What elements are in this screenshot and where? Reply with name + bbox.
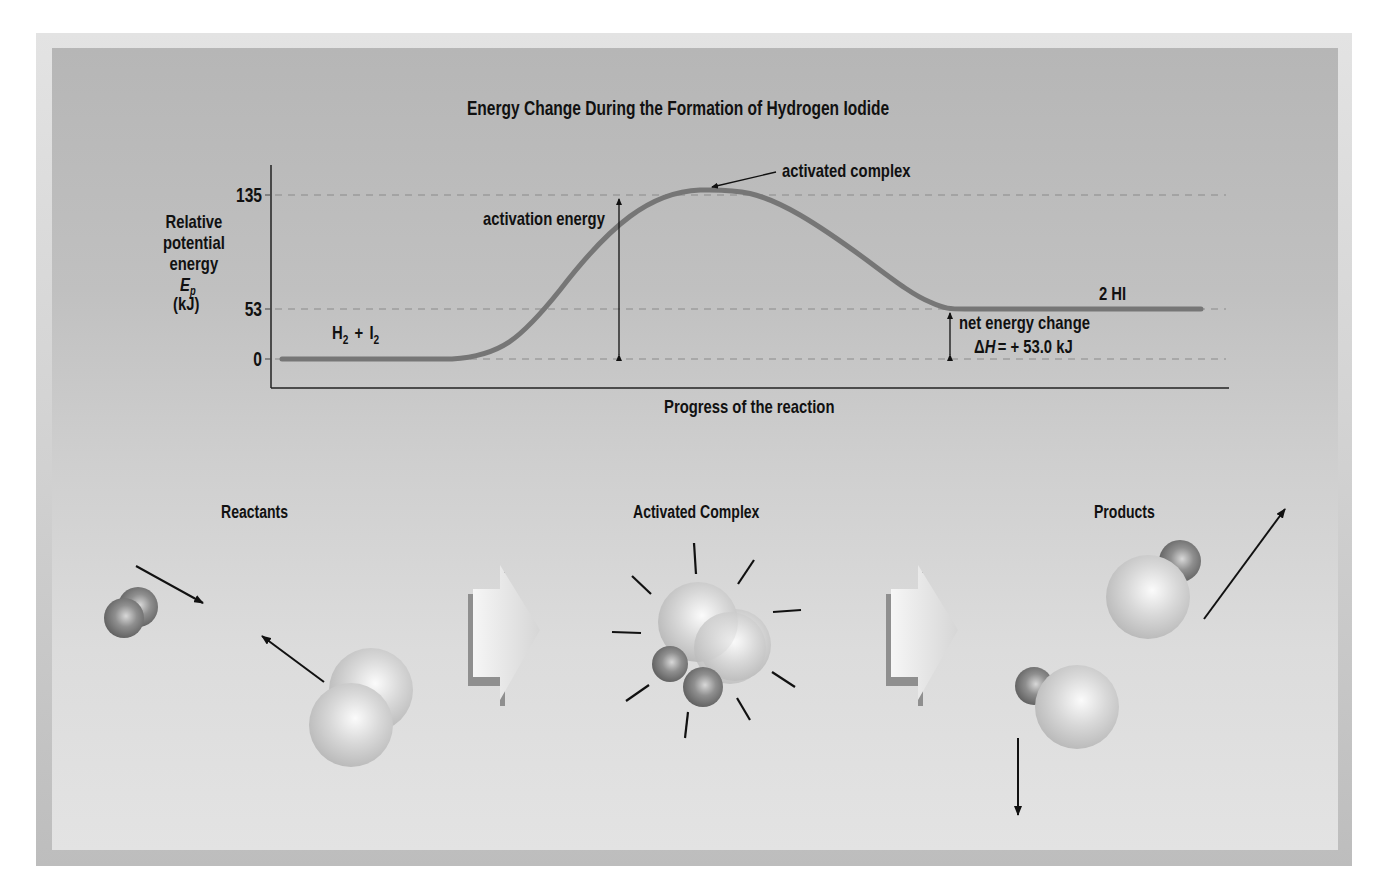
- delta-h-value: ΔH= + 53.0 kJ: [974, 336, 1073, 358]
- diagram-graphics: [0, 0, 1380, 884]
- products-formula: 2 HI: [1099, 283, 1126, 305]
- process-arrow-2: [886, 565, 958, 706]
- activated-complex-molecule: [612, 543, 801, 738]
- delta-h-number: = + 53.0 kJ: [995, 336, 1072, 357]
- y-tick-53: 53: [231, 298, 262, 321]
- gridlines: [275, 195, 1226, 359]
- y-axis-label: Relative potential energy: [163, 211, 225, 274]
- y-tick-0: 0: [231, 348, 262, 371]
- reactants-formula: H2+I2: [332, 322, 379, 344]
- hi-molecule-1: [1106, 540, 1201, 639]
- stage-label-reactants: Reactants: [221, 502, 288, 523]
- delta-symbol: Δ: [974, 336, 985, 357]
- y-axis-unit: (kJ): [173, 293, 199, 315]
- x-axis-label: Progress of the reaction: [664, 396, 834, 418]
- stage-label-products: Products: [1094, 502, 1155, 523]
- formula-i-subscript: 2: [374, 332, 380, 347]
- y-axis-label-line-2: potential: [163, 232, 225, 253]
- activation-energy-label: activation energy: [483, 208, 605, 230]
- chart-axes: [265, 165, 1229, 388]
- y-axis-label-line-1: Relative: [163, 211, 225, 232]
- y-tick-135: 135: [231, 184, 262, 207]
- diagram-title: Energy Change During the Formation of Hy…: [467, 96, 889, 120]
- net-energy-change-label: net energy change: [959, 312, 1090, 334]
- i2-molecule: [309, 648, 413, 767]
- y-axis-label-line-3: energy: [163, 253, 225, 274]
- h2-molecule: [104, 587, 158, 638]
- hi-molecule-2: [1015, 665, 1119, 749]
- enthalpy-symbol: H: [985, 336, 996, 357]
- formula-plus: +: [348, 322, 369, 343]
- activated-complex-label: activated complex: [782, 160, 911, 182]
- i2-motion-arrow: [262, 636, 324, 682]
- process-arrow-1: [468, 565, 540, 706]
- formula-h: H: [332, 322, 343, 343]
- formula-h-subscript: 2: [343, 332, 349, 347]
- hi-1-motion-arrow: [1204, 509, 1285, 619]
- stage-label-activated-complex: Activated Complex: [633, 502, 759, 523]
- y-axis-symbol-letter: E: [180, 274, 190, 295]
- activated-complex-pointer: [712, 172, 776, 187]
